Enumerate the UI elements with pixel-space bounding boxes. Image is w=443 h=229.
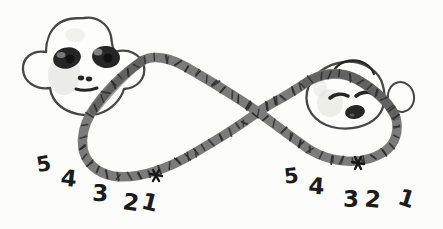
infinity-countdown-sketch: 5 4 3 2 1 5 4 3 2 1 (0, 0, 443, 229)
awake-face (23, 18, 144, 115)
countdown-left-digit-4: 4 (60, 164, 79, 192)
countdown-left-digit-3: 3 (92, 180, 109, 207)
countdown-right-digit-3: 3 (343, 186, 359, 212)
countdown-right-digit-2: 2 (364, 185, 383, 213)
countdown-right: 5 4 3 2 1 (283, 163, 418, 213)
countdown-left-digit-2: 2 (121, 188, 140, 216)
countdown-left-digit-1: 1 (139, 188, 161, 217)
countdown-right-digit-1: 1 (395, 184, 418, 214)
countdown-left: 5 4 3 2 1 (34, 151, 160, 217)
forehead-shading (65, 28, 85, 42)
countdown-right-digit-5: 5 (283, 163, 300, 188)
countdown-left-digit-5: 5 (34, 151, 53, 177)
countdown-right-digit-4: 4 (308, 172, 326, 199)
sketch-canvas: 5 4 3 2 1 5 4 3 2 1 (0, 0, 443, 229)
